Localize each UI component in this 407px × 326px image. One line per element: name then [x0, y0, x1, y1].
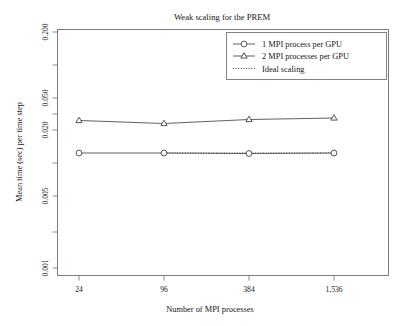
- data-point-triangle: [331, 115, 337, 120]
- y-axis-title: Mean time (sec) per time step: [15, 102, 24, 202]
- y-tick-label: 0.200: [41, 23, 50, 40]
- legend-label: 1 MPI process per GPU: [262, 40, 342, 49]
- y-axis-minor-ticks: [53, 65, 58, 232]
- data-point-triangle: [246, 116, 252, 121]
- series-1-mpi-process-per-gpu: [76, 150, 337, 156]
- legend-label: 2 MPI processes per GPU: [262, 52, 349, 61]
- x-axis-title: Number of MPI processes: [166, 305, 254, 314]
- y-tick-label: 0.005: [41, 187, 50, 204]
- chart-legend: 1 MPI process per GPU 2 MPI processes pe…: [227, 33, 387, 80]
- data-point-circle: [331, 150, 337, 156]
- x-axis-ticks: [79, 276, 334, 281]
- series-line: [79, 118, 334, 124]
- chart-figure: Weak scaling for the PREM 0.200 0.050 0.…: [0, 0, 407, 326]
- data-point-circle: [161, 150, 167, 156]
- weak-scaling-plot: Weak scaling for the PREM 0.200 0.050 0.…: [0, 0, 407, 326]
- y-tick-label: 0.050: [41, 89, 50, 106]
- series-line: [79, 153, 334, 154]
- y-axis-major-ticks: [53, 32, 58, 268]
- x-tick-label: 1,536: [325, 285, 342, 294]
- x-tick-label: 24: [75, 285, 83, 294]
- y-axis-tick-labels: 0.200 0.050 0.020 0.005 0.001: [41, 23, 50, 276]
- series-2-mpi-processes-per-gpu: [76, 115, 337, 126]
- chart-title: Weak scaling for the PREM: [174, 12, 271, 22]
- y-tick-label: 0.001: [41, 259, 50, 276]
- y-tick-label: 0.020: [41, 121, 50, 138]
- data-point-triangle: [161, 120, 167, 125]
- data-point-circle: [76, 150, 82, 156]
- legend-circle-icon: [241, 41, 247, 47]
- x-axis-tick-labels: 24 96 384 1,536: [75, 285, 343, 294]
- x-tick-label: 96: [160, 285, 168, 294]
- data-point-triangle: [76, 117, 82, 122]
- x-tick-label: 384: [243, 285, 255, 294]
- legend-label: Ideal scaling: [262, 65, 305, 74]
- data-point-circle: [246, 151, 252, 157]
